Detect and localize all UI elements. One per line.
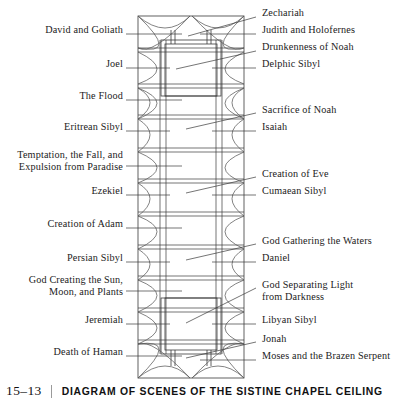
diagram-label-left: The Flood xyxy=(79,90,123,102)
diagram-label-left: Eritrean Sibyl xyxy=(64,121,123,133)
diagram-label-right: Cumaean Sibyl xyxy=(262,185,326,197)
diagram-label-right: Moses and the Brazen Serpent xyxy=(262,350,390,362)
plan-left-spandrels xyxy=(138,52,157,344)
diagram-label-right: God Separating Light from Darkness xyxy=(262,279,353,304)
plan-transverse-bands xyxy=(138,48,244,344)
diagram-label-left: Creation of Adam xyxy=(48,218,123,230)
plan-right-spandrels xyxy=(225,52,244,344)
diagram-label-right: Drunkenness of Noah xyxy=(262,41,354,53)
diagram-label-right: Creation of Eve xyxy=(262,168,329,180)
diagram-label-left: David and Goliath xyxy=(45,24,123,36)
diagram-label-left: Temptation, the Fall, and Expulsion from… xyxy=(17,149,123,174)
plan-inner-rails xyxy=(160,40,222,354)
figure-container: David and Goliath Joel The Flood Eritrea… xyxy=(0,0,395,403)
diagram-label-right: Sacrifice of Noah xyxy=(262,104,336,116)
diagram-label-right: Delphic Sibyl xyxy=(262,58,320,70)
diagram-label-right: God Gathering the Waters xyxy=(262,235,372,247)
diagram-label-left: Joel xyxy=(106,58,123,70)
diagram-label-left: Persian Sibyl xyxy=(67,252,123,264)
sistine-ceiling-plan-diagram xyxy=(0,0,395,403)
diagram-label-left: Jeremiah xyxy=(85,314,123,326)
figure-title: DIAGRAM OF SCENES OF THE SISTINE CHAPEL … xyxy=(62,386,383,397)
figure-caption: 15–13 DIAGRAM OF SCENES OF THE SISTINE C… xyxy=(6,381,389,401)
caption-divider xyxy=(51,385,52,398)
diagram-label-left: Ezekiel xyxy=(91,185,123,197)
diagram-label-right: Judith and Holofernes xyxy=(262,24,355,36)
plan-central-box-top xyxy=(161,30,221,96)
figure-number: 15–13 xyxy=(6,383,51,399)
diagram-label-right: Libyan Sibyl xyxy=(262,314,317,326)
diagram-label-left: Death of Haman xyxy=(54,346,123,358)
diagram-label-right: Isaiah xyxy=(262,121,287,133)
diagram-label-right: Zechariah xyxy=(262,7,304,19)
diagram-label-left: God Creating the Sun, Moon, and Plants xyxy=(29,274,123,299)
diagram-label-right: Daniel xyxy=(262,252,290,264)
leader-lines-right xyxy=(200,34,256,360)
diagram-label-right: Jonah xyxy=(262,333,287,345)
